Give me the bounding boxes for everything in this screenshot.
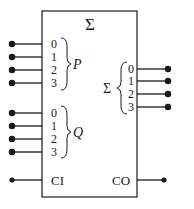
p-bit-3: 3	[51, 76, 57, 90]
sum-label: Σ	[103, 81, 111, 96]
sum-bit-1: 1	[128, 74, 134, 88]
carry-in-terminal	[9, 177, 14, 182]
sum-bit-2: 2	[128, 87, 134, 101]
carry-out-terminal	[161, 177, 166, 182]
q-label: Q	[73, 125, 83, 140]
q-bit-0: 0	[51, 106, 57, 120]
sum-brace	[117, 62, 127, 114]
q-brace	[61, 106, 71, 158]
block-title: Σ	[85, 15, 95, 34]
p-bit-2: 2	[51, 63, 57, 77]
p-inputs	[9, 41, 42, 85]
p-brace	[61, 38, 71, 90]
p-bit-1: 1	[51, 50, 57, 64]
carry-in-label: CI	[51, 173, 64, 188]
q-inputs	[9, 110, 42, 154]
p-label: P	[72, 57, 82, 72]
q-bit-1: 1	[51, 119, 57, 133]
q-bit-3: 3	[51, 145, 57, 159]
sum-bit-3: 3	[128, 100, 134, 114]
q-bit-2: 2	[51, 132, 57, 146]
carry-out-label: CO	[112, 173, 130, 188]
p-bit-0: 0	[51, 37, 57, 51]
sum-outputs	[137, 66, 171, 109]
adder-diagram: Σ 0 1 2 3 P 0 1 2 3 Q 0 1 2 3 Σ CI CO	[0, 0, 194, 209]
